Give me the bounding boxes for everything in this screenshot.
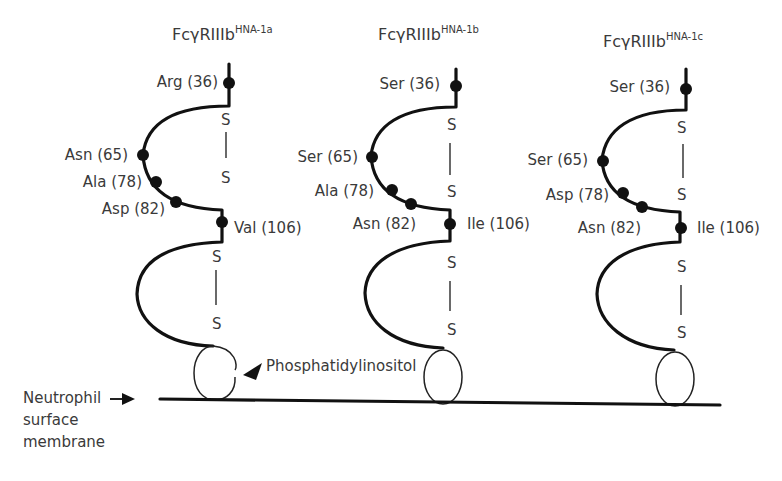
disulfide-s: S xyxy=(447,321,457,339)
disulfide-s: S xyxy=(221,169,231,187)
disulfide-s: S xyxy=(447,254,457,272)
disulfide-s: S xyxy=(447,183,457,201)
arrow-right-icon xyxy=(110,393,135,405)
residue-label: Ser (65) xyxy=(298,148,358,166)
gpi-anchor-icon xyxy=(424,350,462,404)
residue-dot xyxy=(636,201,648,213)
disulfide-s: S xyxy=(212,315,222,333)
disulfide-s: S xyxy=(677,186,687,204)
residue-label: Ser (65) xyxy=(528,151,588,169)
residue-dot xyxy=(170,196,182,208)
anchor-label: Phosphatidylinositol xyxy=(266,357,416,375)
residue-dot xyxy=(617,187,629,199)
variant-title: FcγRIIIbHNA-1c xyxy=(603,31,703,51)
residue-dot xyxy=(366,151,378,163)
residue-dot xyxy=(597,155,609,167)
residue-dot xyxy=(223,77,235,89)
residue-dot xyxy=(150,176,162,188)
variant-title: FcγRIIIbHNA-1a xyxy=(172,24,273,44)
residue-label: Arg (36) xyxy=(157,73,218,91)
residue-label: Asp (82) xyxy=(102,200,165,218)
variant-title: FcγRIIIbHNA-1b xyxy=(378,24,479,44)
residue-label: Ser (36) xyxy=(380,75,440,93)
disulfide-s: S xyxy=(677,324,687,342)
disulfide-s: S xyxy=(677,258,687,276)
membrane-label-line: surface xyxy=(23,411,78,429)
residue-dot xyxy=(405,198,417,210)
membrane-label-line: Neutrophil xyxy=(23,389,101,407)
residue-label: Asn (65) xyxy=(65,146,128,164)
residue-label: Ile (106) xyxy=(467,215,530,233)
variant-hna-1b: FcγRIIIbHNA-1b S S S S Ser (36) Ser (65)… xyxy=(298,24,530,404)
residue-dot xyxy=(450,80,462,92)
disulfide-s: S xyxy=(212,248,222,266)
residue-label: Ala (78) xyxy=(83,173,142,191)
disulfide-s: S xyxy=(221,111,231,129)
residue-dot xyxy=(216,216,228,228)
disulfide-s: S xyxy=(447,116,457,134)
residue-label: Ser (36) xyxy=(610,78,670,96)
gpi-anchor-icon xyxy=(656,352,694,406)
variant-hna-1a: FcγRIIIbHNA-1a S S S S Arg (36) Asn (65)… xyxy=(65,24,302,400)
residue-dot xyxy=(137,149,149,161)
residue-dot xyxy=(680,83,692,95)
fcgriiib-diagram: FcγRIIIbHNA-1a S S S S Arg (36) Asn (65)… xyxy=(0,0,782,481)
residue-label: Asn (82) xyxy=(578,219,641,237)
residue-dot xyxy=(444,218,456,230)
residue-label: Val (106) xyxy=(234,219,302,237)
residue-label: Ala (78) xyxy=(315,182,374,200)
residue-label: Asp (78) xyxy=(546,186,609,204)
residue-dot xyxy=(675,222,687,234)
residue-label: Ile (106) xyxy=(697,219,760,237)
pointer-arrow-icon xyxy=(243,363,262,380)
gpi-anchor-icon xyxy=(194,346,236,400)
residue-label: Asn (82) xyxy=(353,215,416,233)
residue-dot xyxy=(386,184,398,196)
variant-hna-1c: FcγRIIIbHNA-1c S S S S Ser (36) Ser (65)… xyxy=(528,31,760,406)
disulfide-s: S xyxy=(677,119,687,137)
membrane-label-line: membrane xyxy=(23,433,105,451)
